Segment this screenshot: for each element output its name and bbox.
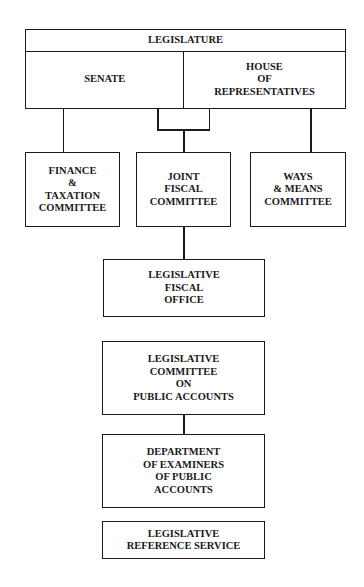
joint-to-fiscal-office-line [183, 227, 185, 259]
house-bracket-line [209, 108, 211, 130]
reference-label: LEGISLATIVE REFERENCE SERVICE [127, 528, 241, 553]
senate-bracket-line [157, 108, 159, 130]
fiscal-office-label: LEGISLATIVE FISCAL OFFICE [148, 269, 220, 307]
finance-label: FINANCE & TAXATION COMMITTEE [39, 165, 107, 215]
bracket-to-joint-line [183, 129, 185, 152]
senate-label: SENATE [84, 73, 125, 86]
public-accounts-label: LEGISLATIVE COMMITTEE ON PUBLIC ACCOUNTS [133, 353, 234, 403]
public-accounts-to-examiners-line [183, 415, 185, 434]
ways-label: WAYS & MEANS COMMITTEE [264, 171, 332, 209]
examiners-label: DEPARTMENT OF EXAMINERS OF PUBLIC ACCOUN… [143, 446, 224, 496]
ways-means-committee-box: WAYS & MEANS COMMITTEE [250, 152, 346, 227]
house-label: HOUSE OF REPRESENTATIVES [214, 61, 315, 99]
house-to-ways-line [310, 108, 312, 152]
senate-to-finance-line [63, 108, 65, 152]
senate-box: SENATE [25, 51, 185, 109]
house-box: HOUSE OF REPRESENTATIVES [183, 51, 346, 109]
legislature-box: LEGISLATURE [25, 29, 346, 52]
public-accounts-committee-box: LEGISLATIVE COMMITTEE ON PUBLIC ACCOUNTS [102, 341, 265, 415]
joint-fiscal-committee-box: JOINT FISCAL COMMITTEE [136, 152, 231, 227]
reference-service-box: LEGISLATIVE REFERENCE SERVICE [102, 521, 265, 559]
joint-label: JOINT FISCAL COMMITTEE [150, 171, 218, 209]
examiners-department-box: DEPARTMENT OF EXAMINERS OF PUBLIC ACCOUN… [102, 434, 265, 508]
finance-committee-box: FINANCE & TAXATION COMMITTEE [25, 152, 120, 227]
legislature-label: LEGISLATURE [148, 34, 223, 47]
fiscal-office-box: LEGISLATIVE FISCAL OFFICE [103, 259, 265, 317]
